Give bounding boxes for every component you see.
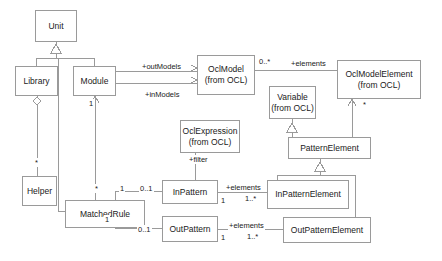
class-box-variable[interactable]: Variable (from OCL) — [269, 86, 316, 119]
class-name: OclModelElement — [345, 69, 412, 80]
multiplicity-module-matchedrule: * — [94, 184, 99, 193]
multiplicity-inpattern-elements-tgt: 1..* — [244, 194, 257, 203]
class-package: (from OCL) — [205, 75, 248, 86]
class-name: Library — [24, 76, 50, 87]
role-label-filter: +filter — [188, 155, 209, 164]
multiplicity-oclmodelelement: * — [362, 100, 367, 109]
class-name: Module — [81, 76, 109, 87]
class-box-oclmodel[interactable]: OclModel (from OCL) — [197, 55, 255, 95]
role-label-inmodels: +inModels — [144, 90, 180, 99]
uml-class-diagram: Unit Library Module OclModel (from OCL) … — [0, 0, 442, 261]
class-box-library[interactable]: Library — [15, 66, 58, 96]
multiplicity-matchedrule-outpattern-tgt: 0..1 — [137, 225, 152, 234]
class-box-helper[interactable]: Helper — [22, 176, 57, 206]
class-name: Unit — [48, 21, 63, 32]
class-box-module[interactable]: Module — [73, 66, 116, 96]
role-label-elements-inpattern: +elements — [225, 183, 262, 192]
class-box-unit[interactable]: Unit — [35, 10, 77, 42]
multiplicity-inpattern-elements-src: 1 — [220, 196, 226, 205]
class-name: InPattern — [173, 187, 208, 198]
class-box-inpattern[interactable]: InPattern — [162, 180, 218, 204]
role-label-outmodels: +outModels — [141, 62, 182, 71]
multiplicity-matchedrule-outpattern-src: 1 — [104, 215, 110, 224]
class-package: (from OCL) — [189, 137, 232, 148]
generalization-variable — [287, 119, 297, 137]
multiplicity-library-helper: * — [34, 158, 39, 167]
class-package: (from OCL) — [271, 103, 314, 114]
class-box-oclexpression[interactable]: OclExpression (from OCL) — [180, 120, 240, 153]
class-name: OutPatternElement — [291, 225, 363, 236]
class-name: PatternElement — [300, 143, 359, 154]
class-box-outpattern[interactable]: OutPattern — [162, 216, 218, 242]
class-box-inpatternelement[interactable]: InPatternElement — [267, 180, 349, 209]
multiplicity-oclmodel-elements: 0..* — [258, 57, 271, 66]
multiplicity-matchedrule-inpattern-src: 1 — [119, 184, 125, 193]
class-name: Variable — [277, 92, 308, 103]
class-name: OclExpression — [183, 126, 238, 137]
assoc-module-inmodels — [116, 77, 197, 83]
class-package: (from OCL) — [358, 80, 401, 91]
assoc-patternelement-oclmodelelement — [348, 99, 356, 137]
class-box-oclmodelelement[interactable]: OclModelElement (from OCL) — [337, 60, 421, 99]
class-name: InPatternElement — [275, 189, 341, 200]
class-box-outpatternelement[interactable]: OutPatternElement — [283, 217, 371, 243]
multiplicity-outpattern-elements-tgt: 1..* — [246, 232, 259, 241]
role-label-elements-outpattern: +elements — [228, 221, 265, 230]
multiplicity-module-unit: 1 — [88, 99, 94, 108]
class-box-patternelement[interactable]: PatternElement — [288, 137, 371, 159]
multiplicity-matchedrule-inpattern-tgt: 0..1 — [139, 184, 154, 193]
class-name: Helper — [27, 186, 52, 197]
role-label-elements-oclmodel: +elements — [290, 59, 327, 68]
class-name: OutPattern — [169, 224, 210, 235]
multiplicity-outpattern-elements-src: 1 — [220, 233, 226, 242]
class-name: OclModel — [208, 64, 244, 75]
